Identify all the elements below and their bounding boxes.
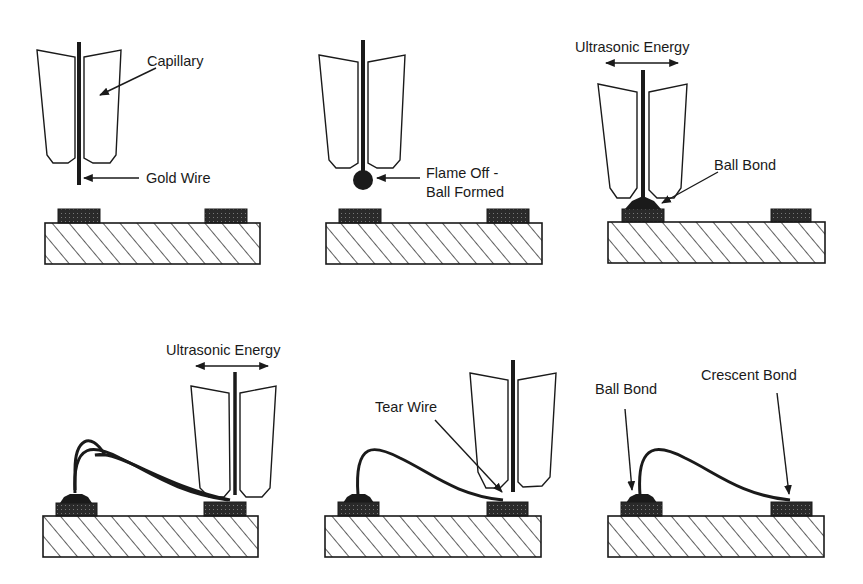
bond-pad-right (487, 502, 528, 516)
capillary-left-half (191, 386, 230, 497)
capillary-left-half (470, 373, 508, 488)
label-crescent-bond: Crescent Bond (701, 367, 797, 383)
bond-pad-left (58, 209, 100, 223)
panel-2-flame-off: Flame Off - Ball Formed (319, 40, 542, 264)
substrate (326, 223, 542, 264)
bond-pad-left (339, 209, 381, 223)
label-gold-wire: Gold Wire (146, 170, 210, 186)
substrate (608, 222, 825, 263)
capillary-right-half (518, 373, 556, 487)
label-ball-bond: Ball Bond (714, 157, 776, 173)
ball-bond-arrow (625, 409, 632, 490)
substrate (45, 223, 260, 264)
bond-pad-right (487, 209, 529, 223)
gold-ball (353, 170, 373, 190)
capillary-left-half (598, 84, 637, 198)
bond-pad-left (621, 502, 662, 516)
wire-bonding-diagram: Capillary Gold Wire Flame Off - Ball For… (0, 0, 863, 584)
label-capillary: Capillary (147, 53, 204, 69)
ball-bond (60, 494, 92, 503)
bond-pad-right (205, 209, 247, 223)
crescent-bond-arrow (777, 393, 789, 494)
label-ultrasonic-energy: Ultrasonic Energy (575, 39, 690, 55)
capillary-right-half (368, 55, 405, 168)
substrate (608, 516, 824, 557)
panel-4-stitch-bond: Ultrasonic Energy (43, 342, 281, 557)
panel-1-wire-feed: Capillary Gold Wire (37, 42, 260, 264)
label-ball-formed: Ball Formed (426, 184, 504, 200)
substrate (43, 516, 258, 557)
capillary-right-half (649, 84, 687, 198)
bond-pad-left (338, 502, 379, 516)
wire-loop (640, 449, 790, 500)
substrate (325, 516, 541, 557)
bond-pad-left (56, 503, 97, 516)
label-ultrasonic-energy: Ultrasonic Energy (166, 342, 281, 358)
capillary-left-half (37, 50, 75, 163)
bond-pad-right (204, 502, 246, 516)
panel-5-tear-wire: Tear Wire (325, 360, 556, 557)
bond-pad-right (771, 502, 812, 516)
bond-pad-left (622, 209, 664, 222)
label-tear-wire: Tear Wire (375, 399, 437, 415)
bond-pad-right (771, 209, 811, 222)
capillary-right-half (84, 50, 121, 163)
panel-6-completed-bond: Ball Bond Crescent Bond (595, 367, 824, 557)
capillary-left-half (319, 55, 358, 168)
capillary-right-half (240, 386, 276, 497)
panel-3-ball-bond: Ultrasonic Energy Ball Bond (575, 39, 825, 263)
label-ball-bond: Ball Bond (595, 381, 657, 397)
label-flame-off: Flame Off - (426, 165, 498, 181)
